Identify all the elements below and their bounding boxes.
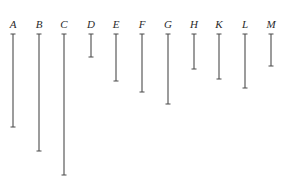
line-segments-diagram: ABCDEFGHKLM bbox=[0, 0, 283, 184]
segment-h: H bbox=[189, 18, 199, 69]
segment-label: F bbox=[138, 18, 146, 30]
segment-label: B bbox=[36, 18, 43, 30]
segment-b: B bbox=[36, 18, 43, 151]
segment-k: K bbox=[214, 18, 223, 79]
segment-c: C bbox=[60, 18, 68, 175]
segment-label: C bbox=[60, 18, 68, 30]
segment-label: L bbox=[241, 18, 248, 30]
segment-label: A bbox=[9, 18, 17, 30]
segment-m: M bbox=[265, 18, 276, 66]
segment-a: A bbox=[9, 18, 17, 127]
segments-group: ABCDEFGHKLM bbox=[9, 18, 277, 175]
segment-label: H bbox=[189, 18, 199, 30]
segment-label: D bbox=[86, 18, 95, 30]
segment-f: F bbox=[138, 18, 146, 92]
segment-g: G bbox=[164, 18, 172, 104]
segment-d: D bbox=[86, 18, 95, 57]
segment-l: L bbox=[241, 18, 248, 88]
segment-label: K bbox=[214, 18, 223, 30]
segment-label: E bbox=[112, 18, 120, 30]
segment-label: M bbox=[265, 18, 276, 30]
segment-label: G bbox=[164, 18, 172, 30]
segment-e: E bbox=[112, 18, 120, 81]
